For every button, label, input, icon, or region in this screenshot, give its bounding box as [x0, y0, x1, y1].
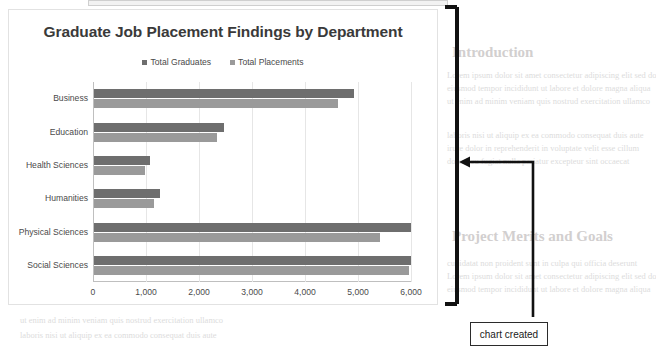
- bleed-line-1: Lorem ipsum dolor sit amet consectetur a…: [447, 70, 656, 80]
- bar-social-sciences-total-placements: [94, 266, 409, 275]
- bar-group-physical-sciences: Physical Sciences: [94, 223, 411, 242]
- gridline-0: [93, 82, 94, 282]
- bar-business-total-graduates: [94, 89, 354, 98]
- category-label-business: Business: [53, 94, 88, 103]
- bleed-line-11: laboris nisi ut aliquip ex ea commodo co…: [20, 330, 217, 340]
- gridline-4000: [305, 82, 306, 282]
- category-label-physical-sciences: Physical Sciences: [19, 228, 88, 237]
- bar-education-total-placements: [94, 133, 217, 142]
- bleed-line-7: cupidatat non proident sunt in culpa qui…: [447, 258, 637, 268]
- legend-label-graduates: Total Graduates: [150, 57, 211, 67]
- chart-legend: Total Graduates Total Placements: [9, 57, 437, 67]
- chart-region-bracket: [443, 4, 460, 307]
- chart-container: Graduate Job Placement Findings by Depar…: [8, 9, 438, 305]
- x-tick-label-5000: 5,000: [347, 287, 369, 297]
- x-tick-label-4000: 4,000: [294, 287, 316, 297]
- chart-title: Graduate Job Placement Findings by Depar…: [9, 23, 437, 41]
- bleed-line-4: laboris nisi ut aliquip ex ea commodo co…: [447, 130, 644, 140]
- bleed-heading-1: Introduction: [452, 44, 533, 61]
- x-tick-label-6000: 6,000: [400, 287, 422, 297]
- legend-item-total-placements: Total Placements: [230, 57, 303, 67]
- document-top-strip: [88, 0, 448, 6]
- bar-group-education: Education: [94, 123, 411, 142]
- bleed-line-9: eiusmod tempor incididunt ut labore et d…: [447, 284, 650, 294]
- bar-group-social-sciences: Social Sciences: [94, 256, 411, 275]
- bleed-line-5: irure dolor in reprehenderit in voluptat…: [447, 143, 639, 153]
- legend-label-placements: Total Placements: [238, 57, 303, 67]
- callout-label: chart created: [480, 329, 538, 340]
- bar-business-total-placements: [94, 99, 338, 108]
- x-tick-label-0: 0: [91, 287, 96, 297]
- category-label-education: Education: [50, 128, 88, 137]
- x-tick-label-2000: 2,000: [188, 287, 210, 297]
- bar-group-health-sciences: Health Sciences: [94, 156, 411, 175]
- bar-health-sciences-total-graduates: [94, 156, 150, 165]
- gridline-1000: [146, 82, 147, 282]
- category-label-humanities: Humanities: [45, 194, 88, 203]
- bleed-line-2: eiusmod tempor incididunt ut labore et d…: [447, 83, 650, 93]
- x-tick-label-1000: 1,000: [135, 287, 157, 297]
- bar-social-sciences-total-graduates: [94, 256, 411, 265]
- x-tick-label-3000: 3,000: [241, 287, 263, 297]
- bar-humanities-total-placements: [94, 199, 154, 208]
- bleed-line-6: dolore eu fugiat nulla pariatur excepteu…: [447, 156, 629, 166]
- bleed-heading-2: Project Merits and Goals: [452, 228, 613, 245]
- gridline-6000: [411, 82, 412, 282]
- legend-swatch-graduates: [142, 60, 147, 65]
- bar-health-sciences-total-placements: [94, 166, 145, 175]
- category-label-health-sciences: Health Sciences: [26, 161, 88, 170]
- bar-education-total-graduates: [94, 123, 224, 132]
- category-label-social-sciences: Social Sciences: [27, 261, 88, 270]
- gridline-3000: [252, 82, 253, 282]
- bar-physical-sciences-total-placements: [94, 233, 380, 242]
- legend-swatch-placements: [230, 60, 235, 65]
- legend-item-total-graduates: Total Graduates: [142, 57, 211, 67]
- callout-arrow: [455, 145, 545, 320]
- bleed-line-8: Lorem ipsum dolor sit amet consectetur a…: [447, 271, 656, 281]
- bleed-line-10: ut enim ad minim veniam quis nostrud exe…: [20, 315, 223, 325]
- bar-group-business: Business: [94, 89, 411, 108]
- gridline-2000: [199, 82, 200, 282]
- gridline-5000: [358, 82, 359, 282]
- callout-chart-created[interactable]: chart created: [470, 322, 548, 346]
- plot-area: 01,0002,0003,0004,0005,0006,000BusinessE…: [93, 82, 411, 282]
- bar-physical-sciences-total-graduates: [94, 223, 411, 232]
- bar-group-humanities: Humanities: [94, 189, 411, 208]
- bleed-line-3: ut enim ad minim veniam quis nostrud exe…: [447, 96, 650, 106]
- bar-humanities-total-graduates: [94, 189, 160, 198]
